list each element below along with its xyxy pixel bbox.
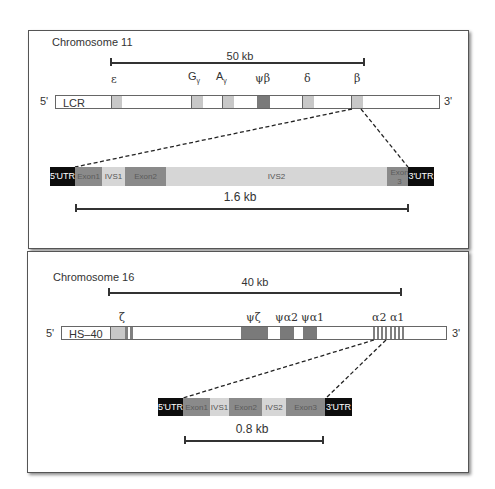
segment-5utr: 5'UTR xyxy=(158,398,183,416)
alpha-gene-structure: 5'UTR Exon1 IVS1 Exon2 IVS2 Exon3 3'UTR xyxy=(158,398,352,416)
segment-ivs2: IVS2 xyxy=(262,398,286,416)
segment-3utr: 3'UTR xyxy=(325,398,352,416)
segment-exon2: Exon2 xyxy=(229,398,262,416)
alpha-detail-scale-label: 0.8 kb xyxy=(222,422,282,436)
segment-ivs1: IVS1 xyxy=(210,398,229,416)
segment-exon1: Exon1 xyxy=(183,398,210,416)
segment-exon3: Exon3 xyxy=(286,398,325,416)
